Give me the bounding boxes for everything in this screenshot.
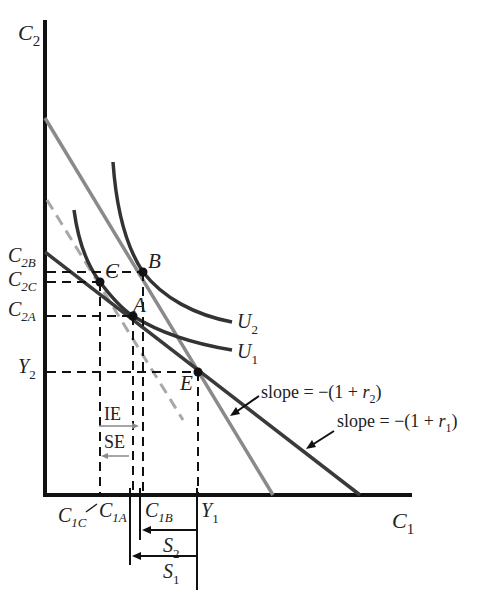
y-tick-c2a: C2A — [8, 298, 36, 324]
indifference-curve-u2 — [113, 162, 232, 322]
s1-arrowhead — [132, 552, 141, 560]
y-axis-label: C2 — [18, 20, 40, 49]
c1c-leader — [86, 504, 97, 512]
label-c: C — [105, 259, 120, 283]
slope-r2-label: slope = −(1 + r2) — [261, 382, 381, 406]
slope-r2-arrowhead — [230, 407, 240, 416]
x-tick-c1b: C1B — [145, 499, 173, 525]
slope-r1-arrowhead — [306, 440, 316, 449]
label-a: A — [131, 293, 146, 317]
x-tick-y1: Y1 — [201, 499, 219, 526]
diagram-canvas: B C A E C2 C1 C2B C2C C2A Y2 C1C C1A C1B… — [0, 0, 483, 590]
x-tick-c1a: C1A — [99, 499, 127, 525]
point-b — [139, 268, 148, 277]
slope-r1-label: slope = −(1 + r1) — [337, 411, 457, 435]
se-label: SE — [104, 432, 125, 452]
budget-line-r1 — [45, 252, 360, 495]
s2-arrowhead — [142, 526, 151, 534]
u1-label: U1 — [237, 340, 258, 367]
s1-label: S1 — [163, 560, 180, 587]
budget-line-r2 — [45, 118, 273, 495]
label-b: B — [148, 249, 161, 273]
ie-arrowhead — [132, 423, 139, 429]
x-axis-label: C1 — [392, 508, 414, 537]
se-arrowhead — [101, 453, 108, 459]
label-e: E — [179, 371, 193, 395]
y-tick-y2: Y2 — [18, 355, 36, 382]
ie-label: IE — [104, 404, 121, 424]
y-tick-c2b: C2B — [8, 244, 36, 270]
y-tick-c2c: C2C — [8, 268, 37, 294]
point-c — [96, 278, 105, 287]
slope-r1-pointer — [312, 431, 334, 445]
point-e — [194, 368, 203, 377]
u2-label: U2 — [237, 310, 258, 337]
x-tick-c1c: C1C — [58, 504, 87, 530]
